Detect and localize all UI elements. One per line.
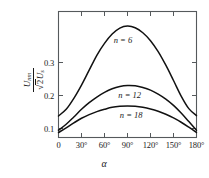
y-tick-label-0.1: 0.1 <box>32 124 54 134</box>
x-tick-label-180: 180° <box>184 140 209 150</box>
curve-label-n6: n = 6 <box>114 35 133 45</box>
curve-label-n18: n = 18 <box>120 110 143 120</box>
chart-plot-area <box>0 0 208 178</box>
bottom-axis-ticks <box>82 133 174 138</box>
curve-label-n12: n = 12 <box>118 90 141 100</box>
x-axis-label: α <box>0 158 208 169</box>
y-tick-label-0.2: 0.2 <box>32 91 54 101</box>
y-tick-label-0.3: 0.3 <box>32 58 54 68</box>
left-axis-ticks <box>59 63 64 129</box>
top-axis-ticks <box>82 12 174 17</box>
chart-figure: Unm √2Us 0.3 0.2 0.1 0 30° 60° 90° 120° … <box>0 0 208 178</box>
right-axis-ticks <box>192 63 197 129</box>
